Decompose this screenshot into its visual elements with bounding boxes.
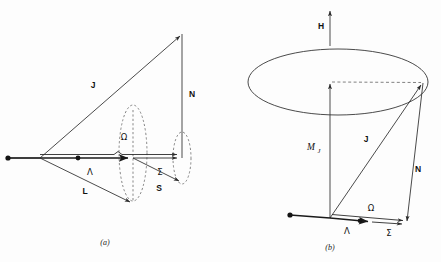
label-j-b: J (364, 134, 369, 144)
vector-n-b (407, 83, 423, 221)
vector-j-b (330, 85, 421, 218)
vector-j-a (40, 36, 180, 158)
label-n-a: N (189, 89, 195, 99)
panel-a: J N Ω Λ Σ S L (a) (5, 34, 195, 247)
vector-omega-a (40, 152, 177, 155)
internuclear-axis-b (290, 215, 330, 218)
label-lambda-a: Λ (87, 167, 93, 177)
label-h-b: H (318, 21, 324, 31)
caption-panel-b: (b) (325, 243, 335, 252)
label-n-b: N (415, 164, 421, 174)
label-mj-b: M J (306, 142, 322, 154)
label-omega-b: Ω (368, 203, 375, 213)
caption-panel-a: (a) (100, 238, 110, 247)
label-omega-a: Ω (121, 132, 128, 142)
label-sigma-b: Σ (386, 228, 391, 238)
label-lambda-b: Λ (344, 226, 350, 236)
figure-container: J N Ω Λ Σ S L (a) (0, 0, 441, 262)
panel-b: H M J J N Ω Λ Σ (b) (248, 11, 428, 252)
dashed-radius-b (332, 82, 421, 83)
label-mj-subscript: J (318, 147, 322, 154)
axis-dot-left-b (287, 212, 292, 217)
label-l-a: L (82, 186, 87, 196)
vector-lambda-b (330, 218, 368, 222)
axis-dot-left-a (5, 155, 10, 160)
label-mj-main: M (306, 142, 316, 152)
vector-s-a (133, 158, 179, 181)
vector-model-figure: J N Ω Λ Σ S L (a) (0, 0, 441, 262)
label-s-a: S (156, 183, 162, 193)
axis-dot-mid-a (76, 156, 81, 161)
axis-dot-mid-b (358, 219, 363, 224)
label-sigma-a: Σ (157, 167, 162, 177)
label-j-a: J (91, 80, 96, 90)
vector-sigma-b (372, 222, 402, 224)
